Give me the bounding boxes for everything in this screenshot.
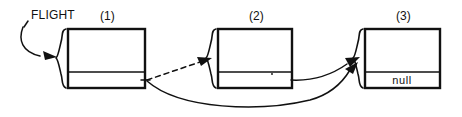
node-1-to-node-2-arrowhead	[197, 57, 212, 66]
node-2-to-node-3-link	[291, 64, 347, 80]
diagram-canvas: FLIGHT (1) (2)	[0, 0, 462, 117]
flight-label-leader	[24, 21, 28, 27]
node-2-box	[218, 29, 292, 88]
node-2-pointer-dot	[271, 73, 273, 75]
node-3-caption: (3)	[396, 9, 411, 23]
node-2	[218, 29, 292, 88]
linked-list-diagram: FLIGHT (1) (2)	[0, 0, 462, 117]
node-3: null	[365, 29, 440, 88]
node-1-box	[68, 29, 145, 88]
node-1	[68, 29, 145, 88]
node-3-pointer-value: null	[392, 74, 412, 86]
node-1-caption: (1)	[100, 9, 115, 23]
node-1-brace	[56, 29, 66, 88]
node-2-caption: (2)	[249, 9, 264, 23]
pointer-variable-label: FLIGHT	[31, 8, 75, 22]
node-1-to-node-2-link	[147, 62, 200, 80]
flight-to-node-1-link	[21, 27, 40, 56]
flight-to-node-1-arrowhead	[43, 51, 57, 60]
